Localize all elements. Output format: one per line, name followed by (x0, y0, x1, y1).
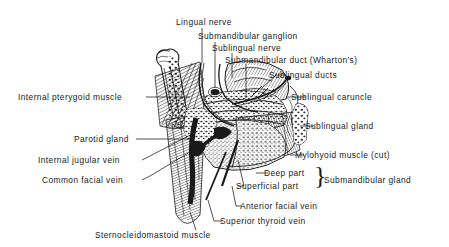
label-superior-thyroid-vein: Superior thyroid vein (220, 217, 306, 225)
label-lingual-nerve: Lingual nerve (176, 18, 232, 26)
label-mylohyoid-muscle: Mylohyoid muscle (cut) (295, 151, 390, 159)
label-anterior-facial-vein: Anterior facial vein (240, 202, 317, 210)
label-sublingual-caruncle: Sublingual caruncle (291, 93, 372, 101)
label-sternocleidomastoid-muscle: Sternocleidomastoid muscle (95, 231, 211, 239)
label-submandibular-gland: Submandibular gland (324, 176, 411, 184)
label-superficial-part: Superficial part (236, 182, 299, 190)
label-deep-part: Deep part (264, 169, 305, 177)
label-submandibular-duct: Submandibular duct (Wharton's) (225, 56, 357, 64)
label-sublingual-nerve: Sublingual nerve (212, 44, 281, 52)
label-internal-pterygoid-muscle: Internal pterygoid muscle (18, 93, 122, 101)
label-internal-jugular-vein: Internal jugular vein (38, 156, 120, 164)
label-sublingual-gland: Sublingual gland (305, 122, 374, 130)
label-submandibular-ganglion: Submandibular ganglion (198, 32, 298, 40)
figure-canvas: Lingual nerve Submandibular ganglion Sub… (0, 0, 449, 247)
label-common-facial-vein: Common facial vein (42, 176, 123, 184)
label-sublingual-ducts: Sublingual ducts (269, 71, 337, 79)
label-parotid-gland: Parotid gland (74, 135, 129, 143)
